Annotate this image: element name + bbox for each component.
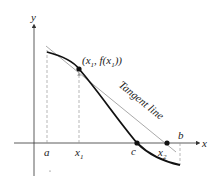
y-axis-label: y (30, 11, 36, 23)
c-label: c (131, 145, 136, 157)
point-label: (x1, f(x1)) (82, 54, 122, 69)
point-x1-fx1 (76, 66, 81, 71)
x1-label: x1 (74, 146, 83, 161)
x-axis-label: x (201, 137, 207, 149)
point-x2 (164, 140, 169, 145)
stray-dot (49, 170, 50, 171)
b-label: b (178, 129, 184, 141)
tangent-line-label: Tangent line (117, 78, 167, 122)
newton-method-diagram: y x (x1, f(x1)) Tangent line a x1 c x2 b (0, 0, 214, 181)
a-label: a (44, 146, 50, 158)
